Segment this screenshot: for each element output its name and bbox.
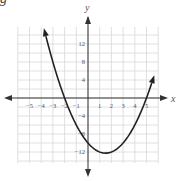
- x-axis-right-arrow-icon: [160, 95, 168, 101]
- y-tick-label: 8: [82, 58, 85, 65]
- x-tick-label: 1: [98, 102, 101, 109]
- x-tick-label: −4: [38, 102, 46, 109]
- parabola-curve: [46, 36, 152, 153]
- x-axis-label: x: [170, 93, 176, 104]
- y-axis-up-arrow-icon: [85, 16, 91, 24]
- x-tick-label: −1: [73, 102, 80, 109]
- parabola-chart: xy−5−4−3−2−1123451284−4−8−12: [0, 0, 177, 181]
- x-tick-label: −3: [49, 102, 56, 109]
- y-tick-label: 12: [79, 40, 86, 47]
- x-tick-label: 3: [121, 102, 124, 109]
- x-axis-left-arrow-icon: [4, 95, 12, 101]
- y-tick-label: −4: [78, 112, 86, 119]
- y-tick-label: 4: [82, 76, 86, 83]
- x-tick-label: 2: [110, 102, 113, 109]
- x-tick-label: −5: [26, 102, 33, 109]
- curve-left-arrow-icon: [43, 28, 49, 36]
- x-tick-label: 4: [133, 102, 137, 109]
- y-axis-down-arrow-icon: [85, 169, 91, 177]
- curve-right-arrow-icon: [149, 75, 155, 84]
- y-tick-label: −12: [75, 148, 85, 155]
- y-axis-label: y: [84, 2, 90, 13]
